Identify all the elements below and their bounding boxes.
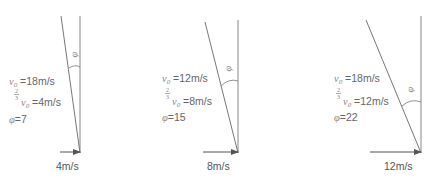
v0-value: =18m/s bbox=[345, 72, 380, 84]
v0-value: =18m/s bbox=[20, 75, 55, 87]
phi-value: =15 bbox=[168, 111, 186, 123]
fraction-numerator: 2 bbox=[165, 87, 170, 94]
fraction-numerator: 2 bbox=[336, 87, 341, 94]
phi-equation: φ=22 bbox=[334, 112, 358, 124]
v-subscript: 0 bbox=[26, 102, 30, 110]
two-thirds-v0-equation: v0 =12m/s bbox=[343, 96, 389, 109]
fraction-numerator: 2 bbox=[14, 88, 19, 95]
two-thirds-v0-equation: v0 =8m/s bbox=[172, 96, 212, 109]
diagram-1 bbox=[60, 16, 80, 153]
v0-equation: v0 =12m/s bbox=[162, 73, 208, 86]
two-thirds-fraction: 2 3 bbox=[165, 87, 170, 100]
phi-equation: φ=15 bbox=[162, 112, 186, 124]
phi-equation: φ=7 bbox=[9, 114, 27, 126]
v0-value: =12m/s bbox=[173, 72, 208, 84]
two-thirds-value: =4m/s bbox=[32, 96, 61, 108]
angle-arc bbox=[69, 66, 80, 68]
angle-arc bbox=[221, 80, 238, 86]
two-thirds-fraction: 2 3 bbox=[14, 88, 19, 101]
v-subscript: 0 bbox=[348, 101, 352, 109]
v-subscript: 0 bbox=[167, 78, 171, 86]
two-thirds-fraction: 2 3 bbox=[336, 87, 341, 100]
diagram-canvas bbox=[0, 0, 432, 179]
angle-arc bbox=[402, 101, 421, 106]
fraction-denominator: 3 bbox=[165, 94, 170, 100]
diagram-2 bbox=[203, 20, 238, 153]
fraction-denominator: 3 bbox=[14, 95, 19, 101]
slanted-line bbox=[61, 16, 80, 153]
arrow-speed-label: 12m/s bbox=[384, 160, 413, 172]
slanted-line bbox=[205, 22, 238, 153]
v-subscript: 0 bbox=[177, 101, 181, 109]
arrow-speed-label: 8m/s bbox=[207, 160, 230, 172]
two-thirds-value: =12m/s bbox=[354, 95, 389, 107]
arrow-speed-label: 4m/s bbox=[56, 160, 79, 172]
two-thirds-value: =8m/s bbox=[183, 95, 212, 107]
v-subscript: 0 bbox=[339, 78, 343, 86]
phi-value: =22 bbox=[340, 111, 358, 123]
two-thirds-v0-equation: v0 =4m/s bbox=[21, 97, 61, 110]
phi-value: =7 bbox=[15, 113, 27, 125]
fraction-denominator: 3 bbox=[336, 94, 341, 100]
v0-equation: v0 =18m/s bbox=[334, 73, 380, 86]
